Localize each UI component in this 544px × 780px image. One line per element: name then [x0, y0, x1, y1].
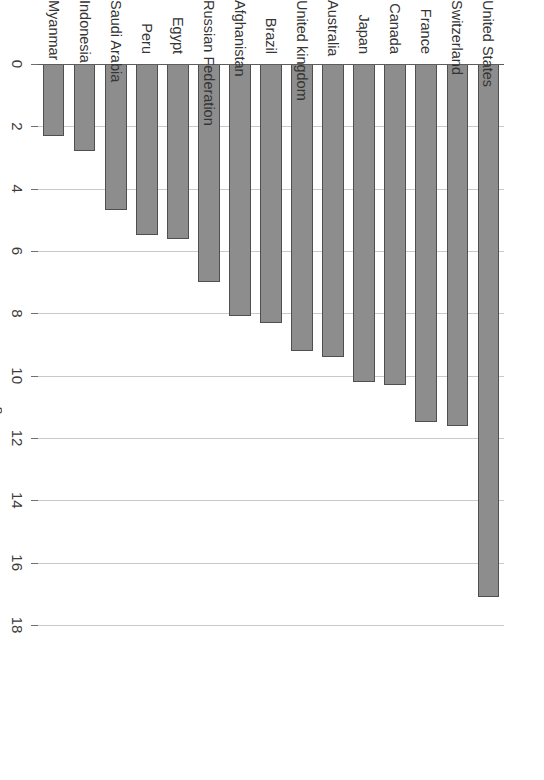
- value-tick: [31, 625, 38, 626]
- bar-chart-figure: 024681012141618 United StatesSwitzerland…: [0, 0, 544, 780]
- value-tick-label: 2: [9, 122, 26, 130]
- gridline: [38, 625, 504, 626]
- bar: [322, 64, 344, 357]
- bar: [105, 64, 127, 210]
- value-tick: [31, 438, 38, 439]
- bar: [353, 64, 375, 382]
- value-tick-label: 0: [9, 60, 26, 68]
- bar: [291, 64, 313, 351]
- value-tick-label: 18: [9, 617, 26, 634]
- value-tick-label: 14: [9, 492, 26, 509]
- bar: [447, 64, 469, 426]
- bar: [43, 64, 65, 136]
- value-tick-label: 8: [9, 309, 26, 317]
- value-tick-label: 16: [9, 554, 26, 571]
- category-label: Myanmar: [46, 0, 62, 54]
- bar: [167, 64, 189, 239]
- value-tick-label: 6: [9, 247, 26, 255]
- value-tick: [31, 376, 38, 377]
- category-label: Brazil: [263, 0, 279, 54]
- bar: [478, 64, 500, 597]
- category-label: Australia: [325, 0, 341, 54]
- category-label: Japan: [356, 0, 372, 54]
- bar: [229, 64, 251, 316]
- value-tick: [31, 500, 38, 501]
- category-label: Afghanistan: [232, 0, 248, 54]
- gridline: [38, 500, 504, 501]
- bar: [74, 64, 96, 151]
- bar: [136, 64, 158, 235]
- value-tick: [31, 189, 38, 190]
- value-tick: [31, 313, 38, 314]
- value-tick: [31, 126, 38, 127]
- category-label: Egypt: [170, 0, 186, 54]
- category-label: Switzerland: [449, 0, 465, 54]
- bar: [260, 64, 282, 323]
- value-axis-title: Percentage of Gross Domestic Product: [0, 64, 2, 625]
- gridline: [38, 563, 504, 564]
- category-label: Indonesia: [77, 0, 93, 54]
- value-tick: [31, 64, 38, 65]
- category-label: Saudi Arabia: [108, 0, 124, 54]
- gridline: [38, 438, 504, 439]
- value-tick-label: 4: [9, 184, 26, 192]
- value-tick-label: 10: [9, 367, 26, 384]
- plot-area: 024681012141618: [38, 64, 504, 625]
- value-tick: [31, 251, 38, 252]
- value-tick-label: 12: [9, 430, 26, 447]
- category-label: Canada: [387, 0, 403, 54]
- category-label: Russian Federation: [201, 0, 217, 54]
- bar: [415, 64, 437, 422]
- category-label: United States: [480, 0, 496, 54]
- category-label: United kingdom: [294, 0, 310, 54]
- value-tick: [31, 563, 38, 564]
- category-label: Peru: [139, 0, 155, 54]
- bar: [384, 64, 406, 385]
- category-label: France: [418, 0, 434, 54]
